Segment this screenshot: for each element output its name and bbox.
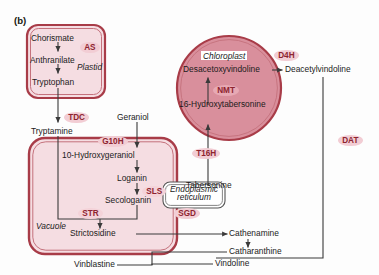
metabolite-desacetoxyvindoline: Desacetoxyvindoline xyxy=(183,65,260,73)
metabolite-10-hydroxygeraniol: 10-Hydroxygeraniol xyxy=(62,151,135,159)
metabolite-tryptamine: Tryptamine xyxy=(31,127,73,135)
metabolite-16-hydroxytabersonine: 16-Hydroxytabersonine xyxy=(179,100,266,108)
pathway-figure: (b) Plastid Vacuole Chloroplast Endoplas… xyxy=(0,0,379,275)
compartment-label-plastid: Plastid xyxy=(77,63,102,71)
metabolite-vindoline: Vindoline xyxy=(215,259,249,267)
panel-label: (b) xyxy=(14,16,26,26)
metabolite-strictosidine: Strictosidine xyxy=(70,229,116,237)
metabolite-cathenamine: Cathenamine xyxy=(229,229,279,237)
metabolite-chorismate: Chorismate xyxy=(31,34,74,42)
metabolite-catharanthine: Catharanthine xyxy=(229,247,282,255)
metabolite-vinblastine: Vinblastine xyxy=(74,260,115,268)
line-vindoline-to-vinblastine xyxy=(152,264,213,265)
compartment-label-chloroplast: Chloroplast xyxy=(201,51,247,60)
metabolite-tabersonine: Tabersonine xyxy=(186,181,232,189)
compartment-label-vacuole: Vacuole xyxy=(36,222,66,230)
metabolite-geraniol: Geraniol xyxy=(117,113,149,121)
metabolite-deacetylvindoline: Deacetylvindoline xyxy=(285,65,351,73)
metabolite-tryptophan: Tryptophan xyxy=(32,78,74,86)
metabolite-secologanin: Secologanin xyxy=(105,196,151,204)
metabolite-anthranilate: Anthranilate xyxy=(30,56,75,64)
enzyme-g10h: G10H xyxy=(98,136,128,147)
metabolite-loganin: Loganin xyxy=(117,174,147,182)
